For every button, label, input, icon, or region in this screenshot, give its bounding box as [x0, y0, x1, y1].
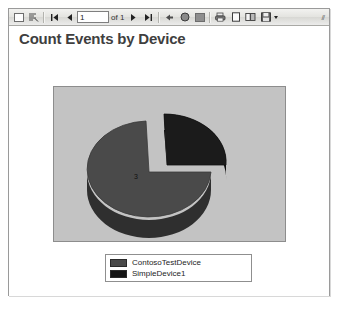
last-page-glyph — [144, 13, 153, 22]
find-glyph — [28, 12, 39, 23]
legend-swatch-contoso — [110, 259, 127, 267]
toolbar-resize-grip: // — [322, 13, 327, 22]
pie-chart: 3 — [54, 87, 285, 241]
next-page-glyph — [129, 13, 138, 22]
save-disk-glyph — [261, 12, 271, 22]
first-page-glyph — [50, 13, 59, 22]
legend-label-contoso: ContosoTestDevice — [132, 258, 201, 267]
chart-legend: ContosoTestDevice SimpleDevice1 — [105, 254, 252, 282]
export-dropdown-caret-icon[interactable] — [274, 16, 278, 19]
first-page-icon[interactable] — [48, 11, 61, 24]
print-layout-icon[interactable] — [244, 11, 257, 24]
back-arrow-glyph — [165, 13, 174, 22]
print-icon[interactable] — [214, 11, 227, 24]
legend-item: ContosoTestDevice — [110, 257, 247, 268]
last-page-icon[interactable] — [142, 11, 155, 24]
legend-item: SimpleDevice1 — [110, 268, 247, 279]
previous-page-glyph — [65, 13, 74, 22]
printer-glyph — [215, 12, 226, 22]
find-text-icon[interactable] — [27, 11, 40, 24]
report-viewer-window: of 1 — [8, 8, 330, 296]
back-to-parent-icon[interactable] — [163, 11, 176, 24]
page-setup-glyph — [231, 12, 241, 22]
next-page-icon[interactable] — [127, 11, 140, 24]
print-layout-glyph — [245, 12, 256, 22]
stop-icon[interactable] — [178, 11, 191, 24]
previous-page-icon[interactable] — [63, 11, 76, 24]
report-toolbar: of 1 — [9, 9, 329, 26]
document-map-icon[interactable] — [12, 11, 25, 24]
stop-glyph — [180, 12, 190, 22]
chart-plot-area: 3 — [53, 86, 286, 242]
legend-swatch-simple — [110, 270, 127, 278]
toolbar-separator — [43, 12, 45, 23]
pie-data-label-contoso: 3 — [134, 173, 138, 180]
export-icon[interactable] — [259, 11, 272, 24]
refresh-icon[interactable] — [193, 11, 206, 24]
page-number-input[interactable] — [77, 11, 109, 23]
page-count-label: of 1 — [109, 11, 126, 24]
screen: of 1 — [0, 0, 344, 309]
toolbar-separator-2 — [158, 12, 160, 23]
refresh-glyph — [195, 13, 205, 22]
page-title: Count Events by Device — [19, 30, 185, 47]
page-setup-icon[interactable] — [229, 11, 242, 24]
toolbar-separator-3 — [209, 12, 211, 23]
document-map-glyph — [14, 13, 24, 22]
report-body: Count Events by Device 3 — [9, 26, 329, 296]
legend-label-simple: SimpleDevice1 — [132, 269, 185, 278]
pie-slice-simple-top — [164, 114, 226, 165]
